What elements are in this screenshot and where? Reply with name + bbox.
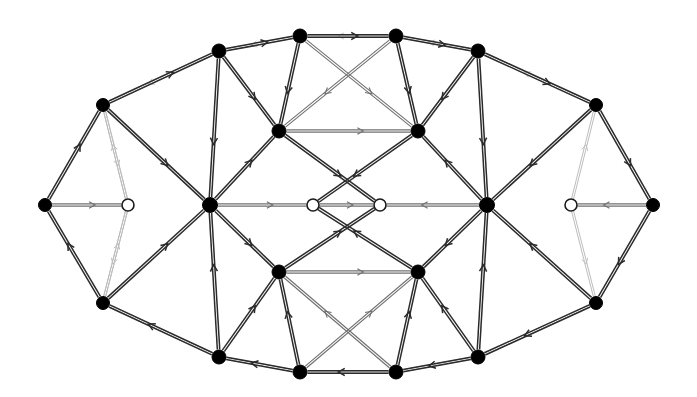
graph-node-filled [480, 198, 495, 213]
graph-node-filled [389, 29, 403, 43]
graph-node-filled [590, 297, 603, 310]
graph-node-filled [203, 198, 218, 213]
figure-root [0, 0, 697, 397]
graph-node-filled [293, 365, 307, 379]
graph-node-filled [590, 99, 603, 112]
graph-node-filled [389, 365, 403, 379]
graph-node-filled [471, 350, 485, 364]
graph-node-hollow [307, 199, 319, 211]
graph-canvas [0, 0, 697, 397]
graph-node-filled [411, 265, 425, 279]
graph-node-filled [647, 199, 660, 212]
graph-node-filled [212, 350, 226, 364]
graph-node-hollow [374, 199, 386, 211]
graph-node-filled [411, 124, 425, 138]
graph-node-filled [97, 99, 110, 112]
canvas-background [0, 0, 697, 397]
graph-node-hollow [565, 199, 577, 211]
graph-node-filled [272, 265, 286, 279]
graph-node-hollow [122, 199, 134, 211]
graph-node-filled [272, 124, 286, 138]
graph-node-filled [212, 44, 226, 58]
graph-node-filled [293, 29, 307, 43]
graph-node-filled [471, 44, 485, 58]
graph-node-filled [39, 199, 52, 212]
graph-node-filled [97, 297, 110, 310]
